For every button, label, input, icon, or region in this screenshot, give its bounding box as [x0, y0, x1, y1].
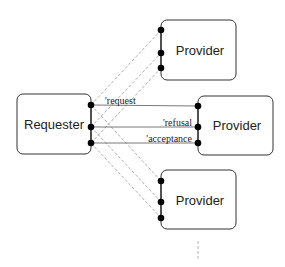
message-refusal-label: 'refusal	[163, 117, 192, 128]
message-request-label: 'request	[105, 95, 136, 106]
requester-label: Requester	[24, 117, 85, 132]
requester-port-refusal	[88, 124, 95, 131]
requester-provider-diagram: Requester Provider Provider Provider 're…	[0, 0, 285, 267]
dashed-connections-bottom	[91, 105, 161, 218]
provider-middle-node: Provider	[195, 96, 273, 155]
dashed-connections-top	[91, 30, 161, 143]
message-acceptance-label: 'acceptance	[146, 133, 192, 144]
requester-node: Requester	[17, 94, 94, 154]
provider-middle-label: Provider	[213, 118, 262, 133]
provider-top-label: Provider	[176, 43, 225, 58]
requester-port-request	[88, 102, 95, 109]
provider-bottom-label: Provider	[176, 193, 225, 208]
provider-bottom-node: Provider	[158, 170, 236, 229]
requester-port-acceptance	[88, 140, 95, 147]
provider-top-node: Provider	[158, 20, 236, 80]
